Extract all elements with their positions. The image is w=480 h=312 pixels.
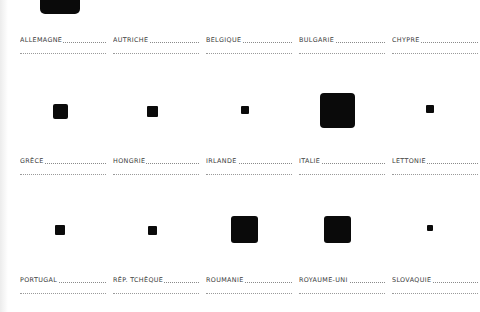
country-name: ALLEMAGNE: [20, 36, 63, 44]
country-name: GRÈCE: [20, 157, 45, 165]
country-name: ROUMANIE: [206, 276, 245, 284]
country-name: ITALIE: [299, 157, 321, 165]
fill-in-line: [113, 293, 199, 294]
size-square: [241, 106, 249, 114]
fill-in-line: [206, 174, 292, 175]
country-name: CHYPRE: [392, 36, 421, 44]
fill-in-line: [299, 293, 385, 294]
country-name: LETTONIE: [392, 157, 427, 165]
country-label: HONGRIE: [113, 157, 199, 165]
country-label: RÉP. TCHÈQUE: [113, 276, 199, 284]
size-square: [40, 0, 80, 14]
country-label: AUTRICHE: [113, 36, 199, 44]
country-name: AUTRICHE: [113, 36, 149, 44]
fill-in-line: [20, 293, 106, 294]
country-label: BELGIQUE: [206, 36, 292, 44]
fill-in-line: [206, 293, 292, 294]
country-label: CHYPRE: [392, 36, 478, 44]
size-square: [427, 225, 433, 231]
country-label: ROUMANIE: [206, 276, 292, 284]
fill-in-line: [206, 53, 292, 54]
country-label: BULGARIE: [299, 36, 385, 44]
country-label: GRÈCE: [20, 157, 106, 165]
country-name: PORTUGAL: [20, 276, 58, 284]
size-square: [53, 104, 68, 119]
fill-in-line: [113, 53, 199, 54]
country-name: ROYAUME-UNI: [299, 276, 349, 284]
country-label: ROYAUME-UNI: [299, 276, 385, 284]
fill-in-line: [20, 174, 106, 175]
size-square: [147, 106, 158, 117]
country-name: BELGIQUE: [206, 36, 242, 44]
country-name: HONGRIE: [113, 157, 146, 165]
fill-in-line: [392, 53, 478, 54]
country-label: ITALIE: [299, 157, 385, 165]
fill-in-line: [392, 293, 478, 294]
fill-in-line: [392, 174, 478, 175]
country-name: RÉP. TCHÈQUE: [113, 276, 164, 284]
size-square: [426, 105, 434, 113]
country-label: IRLANDE: [206, 157, 292, 165]
country-label: ALLEMAGNE: [20, 36, 106, 44]
country-label: LETTONIE: [392, 157, 478, 165]
country-label: PORTUGAL: [20, 276, 106, 284]
fill-in-line: [299, 174, 385, 175]
country-name: BULGARIE: [299, 36, 335, 44]
size-square: [55, 225, 65, 235]
fill-in-line: [299, 53, 385, 54]
size-square: [231, 216, 258, 243]
size-square: [320, 93, 355, 128]
left-edge-shadow: [0, 0, 8, 312]
fill-in-line: [20, 53, 106, 54]
size-square: [324, 216, 351, 243]
fill-in-line: [113, 174, 199, 175]
size-square: [148, 226, 157, 235]
country-name: IRLANDE: [206, 157, 238, 165]
country-name: SLOVAQUIE: [392, 276, 432, 284]
country-label: SLOVAQUIE: [392, 276, 478, 284]
